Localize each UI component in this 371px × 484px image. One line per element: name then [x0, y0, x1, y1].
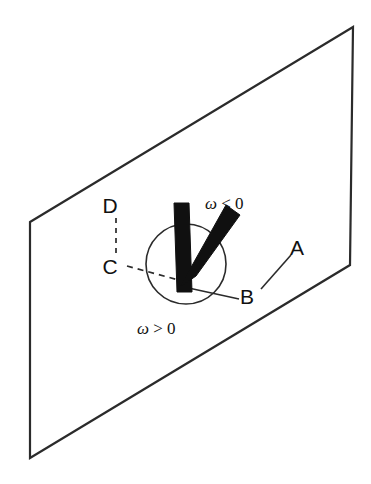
omega-symbol-negative: ω	[205, 194, 217, 213]
label-b: B	[240, 285, 254, 308]
label-c: C	[102, 255, 117, 278]
label-omega-positive: ω > 0	[137, 319, 176, 338]
plane-rotation-diagram: D C A B ω < 0 ω > 0	[0, 0, 371, 484]
label-a: A	[290, 236, 304, 259]
omega-symbol-positive: ω	[137, 319, 149, 338]
label-d: D	[102, 194, 117, 217]
omega-relation-negative: < 0	[217, 194, 244, 213]
label-omega-negative: ω < 0	[205, 194, 244, 213]
omega-relation-positive: > 0	[149, 319, 176, 338]
figure-canvas: D C A B ω < 0 ω > 0	[0, 0, 371, 484]
